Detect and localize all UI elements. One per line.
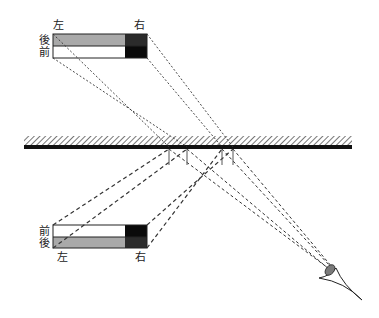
label-top-front: 前	[39, 47, 50, 58]
label-top-left: 左	[53, 20, 64, 31]
eye-icon	[319, 263, 362, 300]
object-box	[53, 34, 147, 58]
diagram-canvas	[0, 0, 379, 318]
label-bottom-front: 前	[39, 226, 50, 237]
mirror-image-box	[53, 225, 147, 248]
label-bottom-back: 後	[39, 238, 50, 249]
reflected-rays	[169, 149, 332, 270]
label-top-back: 後	[39, 35, 50, 46]
normals	[169, 149, 233, 165]
label-bottom-right: 右	[135, 252, 146, 263]
mirror-reflection-diagram: 左 右 後 前 前 後 左 右	[0, 0, 379, 318]
label-bottom-left: 左	[57, 252, 68, 263]
mirror	[24, 136, 352, 149]
label-top-right: 右	[134, 20, 145, 31]
